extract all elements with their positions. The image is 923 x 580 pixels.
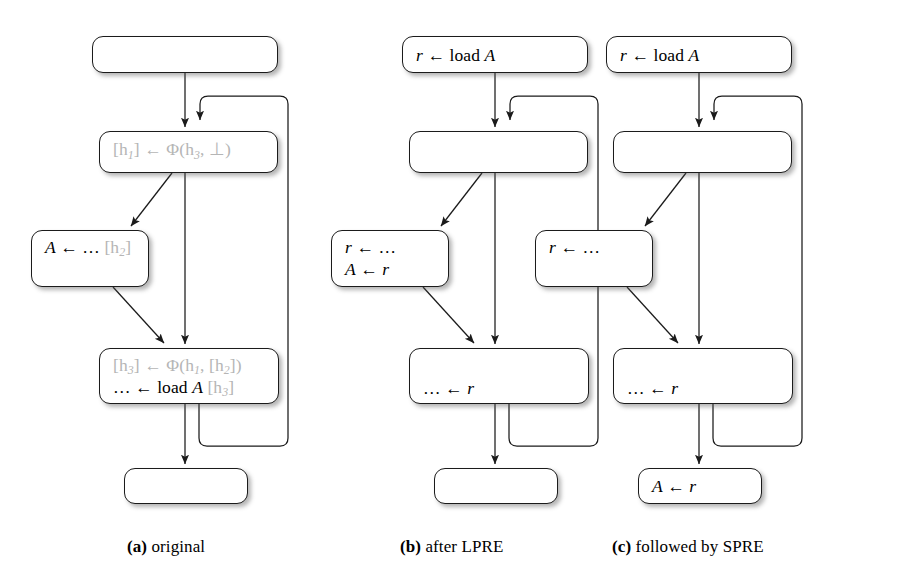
node-exit-block[interactable] (434, 468, 558, 504)
caption-b-text: after LPRE (425, 537, 503, 556)
node-entry-block[interactable]: r ← load A (402, 36, 588, 73)
node-store-text: A ← … [h2] (45, 236, 131, 263)
edge-header-to-store (441, 173, 482, 226)
caption-b-label: (b) (400, 537, 421, 556)
node-entry-text: r ← load A (416, 44, 495, 66)
node-exit-text: A ← r (652, 475, 696, 497)
edge-header-to-store (645, 173, 686, 226)
caption-a-label: (a) (127, 537, 147, 556)
node-store-block[interactable]: r ← … A ← r (331, 230, 449, 287)
node-exit-block[interactable]: A ← r (638, 468, 762, 504)
node-exit-block[interactable] (124, 468, 248, 504)
node-loop-header-block[interactable] (613, 131, 792, 173)
node-load-merge-block[interactable]: [h3] ← Φ(h1, [h2]) … ← load A [h3] (99, 348, 279, 404)
panel-a-original: [h1] ← Φ(h3, ⊥) A ← … [h2] [h3] ← Φ(h1, … (0, 0, 330, 580)
node-entry-block[interactable]: r ← load A (606, 36, 792, 73)
edge-store-to-merge (423, 287, 474, 343)
node-load-merge-text: … ← r (627, 377, 678, 399)
panel-c-followed-by-spre: r ← load A r ← … … ← r A ← r (c) followe… (595, 0, 923, 580)
node-store-text-line1: r ← … (345, 236, 396, 258)
node-store-block[interactable]: A ← … [h2] (31, 230, 149, 287)
node-load-merge-block[interactable]: … ← r (409, 348, 589, 404)
node-entry-block[interactable] (92, 36, 278, 73)
node-load-merge-load-text: … ← load A [h3] (113, 376, 234, 403)
node-store-text-line2: A ← r (345, 258, 389, 280)
node-entry-text: r ← load A (620, 44, 699, 66)
figure-control-flow-graphs: [h1] ← Φ(h3, ⊥) A ← … [h2] [h3] ← Φ(h1, … (0, 0, 923, 580)
caption-c: (c) followed by SPRE (612, 537, 764, 557)
caption-c-text: followed by SPRE (636, 537, 764, 556)
node-load-merge-block[interactable]: … ← r (613, 348, 793, 404)
node-loop-header-text: [h1] ← Φ(h3, ⊥) (113, 138, 231, 165)
edge-header-to-store (131, 173, 172, 226)
caption-a-text: original (151, 537, 205, 556)
node-store-block[interactable]: r ← … (535, 230, 653, 287)
edge-store-to-merge (113, 287, 164, 343)
edge-store-to-merge (627, 287, 678, 343)
caption-b: (b) after LPRE (400, 537, 503, 557)
node-loop-header-block[interactable]: [h1] ← Φ(h3, ⊥) (99, 131, 278, 173)
caption-a: (a) original (127, 537, 205, 557)
node-store-text: r ← … (549, 236, 600, 258)
node-loop-header-block[interactable] (409, 131, 588, 173)
panel-b-after-lpre: r ← load A r ← … A ← r … ← r (b) after L… (300, 0, 620, 580)
node-load-merge-text: … ← r (423, 377, 474, 399)
caption-c-label: (c) (612, 537, 631, 556)
